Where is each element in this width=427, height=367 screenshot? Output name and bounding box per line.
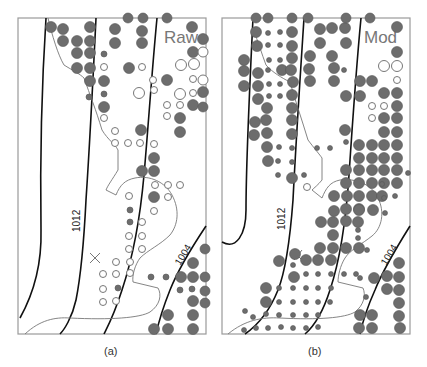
caption-a: (a): [104, 345, 117, 357]
figure: Raw 1012 1004: [0, 0, 427, 367]
caption-b: (b): [308, 345, 321, 357]
panel-a: Raw 1012 1004: [18, 13, 210, 357]
isobar-left-b: [222, 18, 253, 244]
x-mark: [90, 253, 100, 263]
isobar-label-1012: 1012: [71, 209, 82, 232]
isobar-label-1012-b: 1012: [276, 207, 287, 230]
isobar-left: [20, 18, 46, 318]
panel-label-mod: Mod: [364, 28, 397, 47]
panel-b: Mod 1012 1004: [222, 13, 411, 357]
